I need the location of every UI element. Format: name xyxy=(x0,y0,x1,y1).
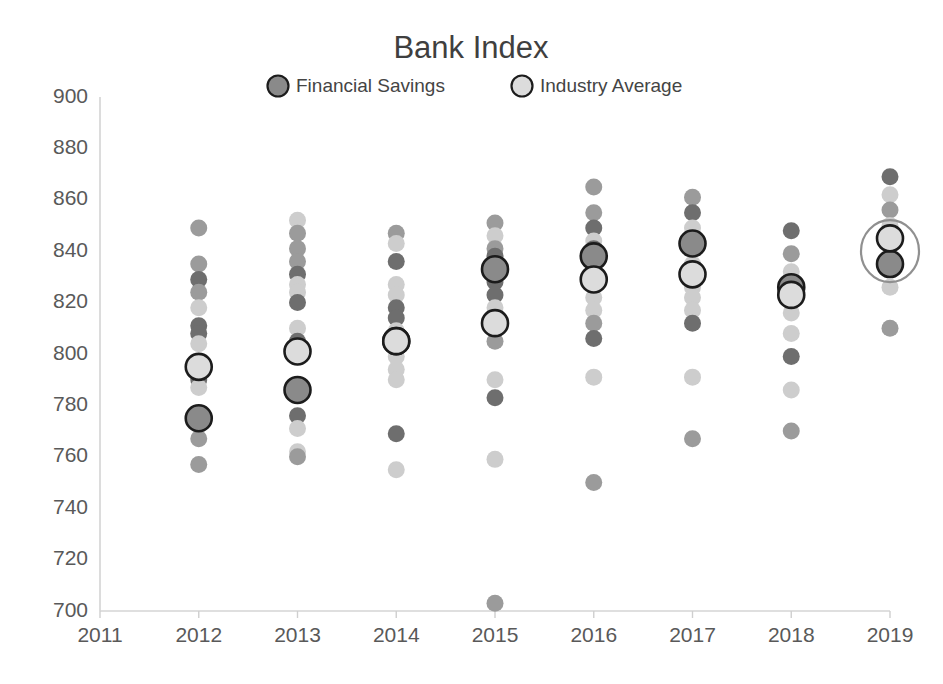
marker-industry-average xyxy=(877,225,903,251)
marker-industry-average xyxy=(778,282,804,308)
scatter-point xyxy=(684,204,701,221)
marker-industry-average xyxy=(186,354,212,380)
legend-marker-industry-average xyxy=(512,76,533,97)
y-axis-tick-label: 700 xyxy=(53,598,88,621)
legend-marker-financial-savings xyxy=(268,76,289,97)
scatter-point xyxy=(289,420,306,437)
y-axis-tick-label: 800 xyxy=(53,341,88,364)
y-axis-tick-label: 740 xyxy=(53,495,88,518)
scatter-point xyxy=(190,456,207,473)
y-axis-tick-label: 820 xyxy=(53,289,88,312)
scatter-point xyxy=(882,168,899,185)
scatter-point xyxy=(684,430,701,447)
x-axis-tick-label: 2018 xyxy=(768,623,815,646)
scatter-point xyxy=(487,595,504,612)
legend-label-financial-savings: Financial Savings xyxy=(296,75,445,96)
x-axis-tick-label: 2013 xyxy=(274,623,321,646)
scatter-point xyxy=(882,202,899,219)
y-axis-tick-label: 720 xyxy=(53,546,88,569)
scatter-point xyxy=(684,189,701,206)
scatter-point xyxy=(190,335,207,352)
x-axis-tick-labels: 201120122013201420152016201720182019 xyxy=(77,623,913,646)
scatter-point xyxy=(190,220,207,237)
x-axis-tick-label: 2012 xyxy=(175,623,222,646)
scatter-point xyxy=(388,425,405,442)
marker-financial-savings xyxy=(186,405,212,431)
scatter-point xyxy=(289,225,306,242)
y-axis-tick-labels: 900880860840820800780760740720700 xyxy=(53,84,88,621)
scatter-point xyxy=(585,330,602,347)
scatter-point xyxy=(190,430,207,447)
scatter-point xyxy=(585,315,602,332)
marker-industry-average xyxy=(482,310,508,336)
scatter-point xyxy=(585,474,602,491)
chart-title: Bank Index xyxy=(393,30,549,65)
scatter-point xyxy=(487,451,504,468)
scatter-point xyxy=(585,178,602,195)
scatter-point xyxy=(783,348,800,365)
y-axis-tick-label: 900 xyxy=(53,84,88,107)
y-axis-tick-label: 760 xyxy=(53,443,88,466)
scatter-point xyxy=(684,369,701,386)
bank-index-chart: Bank Index Financial SavingsIndustry Ave… xyxy=(0,0,943,684)
chart-legend: Financial SavingsIndustry Average xyxy=(268,75,683,96)
marker-industry-average xyxy=(680,261,706,287)
scatter-point xyxy=(289,448,306,465)
scatter-point xyxy=(783,245,800,262)
x-axis-tick-label: 2019 xyxy=(867,623,914,646)
scatter-point xyxy=(190,284,207,301)
marker-industry-average xyxy=(581,266,607,292)
scatter-point xyxy=(783,325,800,342)
marker-financial-savings xyxy=(285,377,311,403)
marker-financial-savings xyxy=(482,256,508,282)
scatter-point xyxy=(388,253,405,270)
scatter-point xyxy=(487,371,504,388)
chart-axes xyxy=(100,97,890,618)
scatter-point xyxy=(882,186,899,203)
marker-industry-average xyxy=(285,338,311,364)
x-axis-tick-label: 2015 xyxy=(472,623,519,646)
scatter-point xyxy=(585,369,602,386)
scatter-point xyxy=(388,461,405,478)
legend-label-industry-average: Industry Average xyxy=(540,75,682,96)
x-axis-tick-label: 2011 xyxy=(77,623,122,646)
scatter-point xyxy=(882,320,899,337)
scatter-point xyxy=(487,389,504,406)
y-axis-tick-label: 880 xyxy=(53,135,88,158)
scatter-point xyxy=(190,379,207,396)
scatter-point xyxy=(190,299,207,316)
x-axis-tick-label: 2017 xyxy=(669,623,716,646)
y-axis-tick-label: 780 xyxy=(53,392,88,415)
scatter-point xyxy=(388,235,405,252)
marker-financial-savings xyxy=(877,251,903,277)
scatter-point xyxy=(684,315,701,332)
scatter-point xyxy=(190,256,207,273)
scatter-point xyxy=(783,381,800,398)
scatter-point xyxy=(289,294,306,311)
chart-canvas: Bank Index Financial SavingsIndustry Ave… xyxy=(0,0,943,684)
y-axis-tick-label: 840 xyxy=(53,238,88,261)
x-axis-tick-label: 2016 xyxy=(570,623,617,646)
marker-financial-savings xyxy=(680,230,706,256)
y-axis-tick-label: 860 xyxy=(53,186,88,209)
x-axis-tick-label: 2014 xyxy=(373,623,420,646)
marker-industry-average xyxy=(383,328,409,354)
scatter-point xyxy=(585,204,602,221)
scatter-point xyxy=(388,371,405,388)
scatter-point xyxy=(783,222,800,239)
scatter-point xyxy=(783,423,800,440)
